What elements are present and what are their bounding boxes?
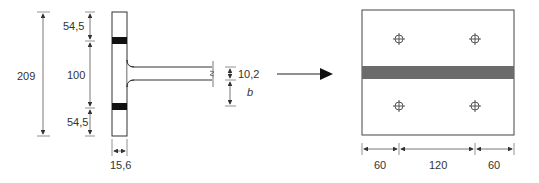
label-web-extension: b xyxy=(247,86,253,98)
bolt-band-top xyxy=(112,37,127,44)
label-bolt-pitch: 120 xyxy=(429,159,447,171)
bolt-band-bottom xyxy=(112,103,127,110)
dim-chain-horizontal xyxy=(362,143,514,155)
transition-arrow xyxy=(277,68,333,80)
web xyxy=(127,60,212,87)
label-top-edge: 54,5 xyxy=(63,20,84,32)
plate-plan-view xyxy=(362,10,514,135)
dim-web xyxy=(225,67,236,106)
dim-overall-height xyxy=(37,12,50,136)
label-overall-height: 209 xyxy=(17,70,35,82)
label-web-thickness: 10,2 xyxy=(238,68,259,80)
label-bottom-edge: 54,5 xyxy=(67,116,88,128)
label-flange-thickness: 15,6 xyxy=(110,159,131,171)
label-bolt-spacing: 100 xyxy=(67,69,85,81)
label-right-edge: 60 xyxy=(488,159,500,171)
label-left-edge: 60 xyxy=(374,159,386,171)
plate-weld-band xyxy=(362,66,514,79)
t-stub-section xyxy=(112,12,214,136)
flange xyxy=(112,12,127,136)
arrow-right-icon xyxy=(320,68,333,80)
dim-flange-thickness xyxy=(112,139,127,156)
